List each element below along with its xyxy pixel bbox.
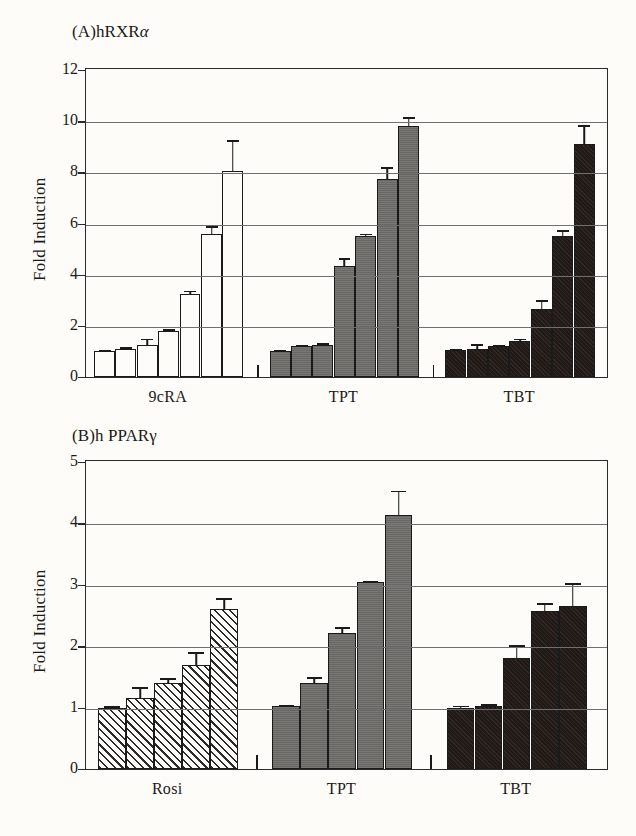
y-tick-mark [78, 326, 85, 327]
bar-tpt-2 [300, 683, 328, 769]
error-bar-tpt-3 [335, 627, 351, 633]
y-tick-mark [78, 121, 85, 122]
bar-tbt-2 [467, 349, 488, 377]
bar-tpt-3 [328, 633, 356, 769]
error-bar-9cra-4 [163, 329, 175, 331]
bar-tpt-1 [270, 351, 291, 377]
y-tick-label: 2 [38, 636, 78, 654]
bar-9cra-2 [115, 349, 136, 377]
error-bar-rosi-3 [160, 678, 176, 683]
error-bar-tpt-5 [360, 234, 372, 237]
error-bar-tbt-4 [537, 603, 553, 610]
bar-tbt-5 [531, 309, 552, 377]
error-bar-tbt-1 [453, 706, 469, 708]
gridline [86, 586, 607, 587]
error-bar-tbt-2 [481, 704, 497, 706]
bar-tpt-3 [312, 345, 333, 377]
bar-tpt-2 [291, 346, 312, 377]
bar-tbt-1 [445, 350, 466, 377]
panel-b-title-main: h PPAR [95, 426, 149, 445]
bar-9cra-4 [158, 331, 179, 377]
bar-tbt-4 [531, 611, 559, 769]
gridline [86, 122, 607, 123]
bar-tpt-5 [355, 236, 376, 377]
y-tick-mark [78, 708, 85, 709]
panel-a-hrxra: (A)hRXRα Fold Induction 024681012 9cRATP… [0, 0, 636, 418]
y-tick-label: 5 [38, 452, 78, 470]
error-bar-rosi-5 [216, 598, 232, 609]
bar-tbt-2 [475, 706, 503, 769]
error-bar-tpt-2 [296, 345, 308, 347]
panel-b-title-prefix: (B) [72, 426, 95, 445]
error-bar-tpt-2 [307, 677, 323, 683]
gridline [86, 225, 607, 226]
error-bar-rosi-4 [188, 652, 204, 664]
bar-tpt-4 [334, 266, 355, 377]
bar-9cra-7 [222, 171, 243, 377]
x-group-label-tpt: TPT [282, 780, 402, 798]
error-bar-tpt-1 [279, 705, 295, 707]
y-tick-label: 2 [38, 316, 78, 334]
y-tick-label: 4 [38, 265, 78, 283]
panel-b-plot-area [85, 460, 608, 770]
y-tick-mark [78, 523, 85, 524]
y-tick-mark [78, 585, 85, 586]
y-tick-label: 1 [38, 698, 78, 716]
panel-a-title-prefix: (A) [72, 22, 96, 41]
y-tick-label: 12 [38, 60, 78, 78]
gridline [86, 647, 607, 648]
error-bar-tbt-6 [557, 230, 569, 236]
y-tick-mark [78, 462, 85, 463]
error-bar-tbt-2 [471, 344, 483, 349]
error-bar-tpt-4 [339, 258, 351, 266]
panel-a-bars-layer [86, 69, 607, 377]
y-tick-mark [78, 70, 85, 71]
panel-a-title: (A)hRXRα [72, 22, 149, 42]
gridline [86, 327, 607, 328]
error-bar-tpt-3 [317, 343, 329, 345]
y-tick-label: 8 [38, 162, 78, 180]
error-bar-tbt-4 [514, 339, 526, 342]
panel-b-hppargamma: (B)h PPARγ Fold Induction 012345 RosiTPT… [0, 418, 636, 836]
y-tick-mark [78, 769, 85, 770]
bar-tpt-4 [357, 582, 385, 769]
x-group-label-9cra: 9cRA [108, 388, 228, 406]
y-tick-mark [78, 172, 85, 173]
error-bar-rosi-1 [104, 706, 120, 707]
gridline [86, 709, 607, 710]
error-bar-9cra-5 [184, 291, 196, 294]
bar-tbt-6 [552, 236, 573, 377]
error-bar-9cra-3 [141, 339, 153, 345]
y-tick-mark [78, 646, 85, 647]
error-bar-9cra-6 [206, 226, 218, 234]
bar-tpt-1 [272, 706, 300, 769]
group-separator-tick [430, 755, 432, 769]
bar-tbt-3 [488, 346, 509, 377]
panel-a-title-main: hRXR [96, 22, 140, 41]
x-group-label-tbt: TBT [456, 780, 576, 798]
group-separator-tick [257, 365, 259, 377]
panel-a-plot-area [85, 68, 608, 378]
bar-tbt-4 [509, 341, 530, 377]
bar-tbt-7 [574, 144, 595, 377]
x-group-label-rosi: Rosi [107, 780, 227, 798]
panel-a-title-symbol: α [140, 22, 149, 41]
error-bar-tbt-3 [493, 345, 505, 347]
error-bar-9cra-7 [227, 140, 239, 171]
error-bar-tpt-4 [363, 581, 379, 582]
panel-b-title: (B)h PPARγ [72, 426, 157, 446]
bar-tpt-6 [377, 179, 398, 377]
error-bar-tpt-1 [274, 350, 286, 351]
error-bar-tpt-5 [391, 491, 407, 516]
x-group-label-tpt: TPT [284, 388, 404, 406]
y-tick-mark [78, 377, 85, 378]
gridline [86, 276, 607, 277]
bar-rosi-5 [210, 609, 238, 769]
bar-tbt-5 [559, 606, 587, 769]
error-bar-9cra-1 [99, 350, 111, 351]
bar-9cra-6 [201, 234, 222, 377]
bar-9cra-1 [94, 351, 115, 377]
bar-tbt-1 [447, 708, 475, 769]
x-group-label-tbt: TBT [459, 388, 579, 406]
error-bar-tbt-7 [578, 125, 590, 144]
